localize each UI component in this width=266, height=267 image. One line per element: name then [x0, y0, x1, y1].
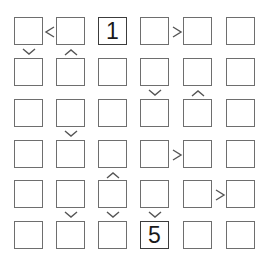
empty-cell[interactable]	[14, 17, 43, 45]
empty-cell[interactable]	[98, 221, 127, 249]
cell-digit: 1	[106, 20, 119, 43]
empty-cell[interactable]	[14, 99, 43, 127]
empty-cell[interactable]	[56, 99, 85, 127]
cell-digit: 5	[148, 224, 161, 247]
up-chevron-icon	[106, 168, 120, 182]
empty-cell[interactable]	[140, 58, 169, 86]
empty-cell[interactable]	[56, 180, 85, 208]
empty-cell[interactable]	[14, 140, 43, 168]
empty-cell[interactable]	[226, 17, 255, 45]
less-than-icon	[43, 25, 57, 39]
empty-cell[interactable]	[226, 140, 255, 168]
empty-cell[interactable]	[183, 180, 212, 208]
empty-cell[interactable]	[14, 221, 43, 249]
empty-cell[interactable]	[226, 221, 255, 249]
greater-than-icon	[170, 25, 184, 39]
greater-than-icon	[213, 188, 227, 202]
futoshiki-board: 15	[0, 0, 266, 267]
up-chevron-icon	[64, 45, 78, 59]
empty-cell[interactable]	[98, 140, 127, 168]
empty-cell[interactable]	[226, 99, 255, 127]
down-chevron-icon	[148, 86, 162, 100]
empty-cell[interactable]	[14, 58, 43, 86]
empty-cell[interactable]	[226, 180, 255, 208]
empty-cell[interactable]	[183, 99, 212, 127]
empty-cell[interactable]	[56, 17, 85, 45]
empty-cell[interactable]	[98, 58, 127, 86]
down-chevron-icon	[106, 208, 120, 222]
empty-cell[interactable]	[140, 140, 169, 168]
empty-cell[interactable]	[183, 140, 212, 168]
empty-cell[interactable]	[140, 99, 169, 127]
given-cell: 1	[98, 17, 127, 45]
down-chevron-icon	[148, 208, 162, 222]
empty-cell[interactable]	[140, 180, 169, 208]
empty-cell[interactable]	[183, 58, 212, 86]
empty-cell[interactable]	[56, 221, 85, 249]
empty-cell[interactable]	[140, 17, 169, 45]
empty-cell[interactable]	[14, 180, 43, 208]
down-chevron-icon	[22, 45, 36, 59]
empty-cell[interactable]	[98, 99, 127, 127]
empty-cell[interactable]	[183, 221, 212, 249]
down-chevron-icon	[64, 208, 78, 222]
empty-cell[interactable]	[56, 58, 85, 86]
given-cell: 5	[140, 221, 169, 249]
empty-cell[interactable]	[98, 180, 127, 208]
down-chevron-icon	[64, 127, 78, 141]
up-chevron-icon	[191, 86, 205, 100]
greater-than-icon	[170, 148, 184, 162]
empty-cell[interactable]	[183, 17, 212, 45]
empty-cell[interactable]	[226, 58, 255, 86]
empty-cell[interactable]	[56, 140, 85, 168]
